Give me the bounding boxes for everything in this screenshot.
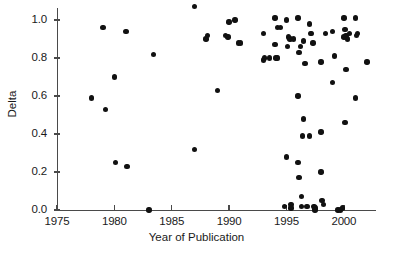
data-point [272, 15, 277, 20]
data-point [205, 33, 210, 38]
data-point [299, 204, 304, 209]
y-axis-line [57, 8, 58, 211]
y-axis-tick [54, 133, 60, 134]
x-axis-tick [56, 205, 57, 211]
data-point [332, 53, 337, 58]
data-point [301, 38, 306, 43]
x-axis-tick [114, 205, 115, 211]
data-point [307, 21, 312, 26]
data-point [345, 36, 350, 41]
x-axis-tick-label: 1980 [92, 215, 136, 227]
data-point [300, 133, 305, 138]
data-point [225, 34, 230, 39]
x-axis-tick-label: 1995 [264, 215, 308, 227]
data-point [192, 147, 197, 152]
data-point [321, 202, 326, 207]
data-point [298, 44, 303, 49]
data-point [226, 19, 231, 24]
scatter-plot-figure: 0.00.20.40.60.81.01975198019851990199520… [0, 0, 393, 253]
data-point [295, 15, 300, 20]
data-point [354, 33, 359, 38]
data-point [310, 40, 315, 45]
x-axis-title: Year of Publication [0, 231, 393, 243]
data-point [151, 52, 156, 57]
data-point [353, 95, 358, 100]
data-point [124, 164, 129, 169]
x-axis-tick-label: 2000 [322, 215, 366, 227]
x-axis-line [57, 210, 376, 211]
data-point [295, 160, 300, 165]
data-point [100, 25, 105, 30]
data-point [278, 25, 283, 30]
y-axis-tick [54, 95, 60, 96]
data-point [113, 160, 118, 165]
data-point [330, 80, 335, 85]
data-point [343, 67, 348, 72]
data-point [347, 31, 352, 36]
data-point [296, 175, 301, 180]
y-axis-tick-label: 0.4 [13, 127, 47, 139]
data-point [275, 55, 280, 60]
x-axis-tick-label: 1990 [207, 215, 251, 227]
data-point [112, 74, 117, 79]
data-point [299, 194, 304, 199]
data-point [272, 42, 277, 47]
x-axis-tick [228, 205, 229, 211]
data-point [301, 116, 306, 121]
data-point [364, 59, 369, 64]
data-point [342, 120, 347, 125]
data-point [318, 59, 323, 64]
data-point [309, 31, 314, 36]
data-point [261, 31, 266, 36]
data-point [318, 169, 323, 174]
data-point [353, 15, 358, 20]
x-axis-tick-label: 1985 [150, 215, 194, 227]
data-point [284, 17, 289, 22]
y-axis-tick-label: 0.8 [13, 51, 47, 63]
data-point [307, 133, 312, 138]
data-point [291, 36, 296, 41]
data-point [318, 129, 323, 134]
y-axis-tick [54, 57, 60, 58]
data-point [146, 207, 151, 212]
y-axis-tick-label: 0.2 [13, 165, 47, 177]
data-point [285, 44, 290, 49]
x-axis-tick [171, 205, 172, 211]
x-axis-tick-label: 1975 [35, 215, 79, 227]
data-point [282, 204, 287, 209]
data-point [89, 95, 94, 100]
y-axis-tick-label: 0.0 [13, 203, 47, 215]
data-point [284, 154, 289, 159]
data-point [123, 29, 128, 34]
data-point [267, 55, 272, 60]
data-point [215, 88, 220, 93]
data-point [295, 93, 300, 98]
data-point [296, 50, 301, 55]
y-axis-tick [54, 171, 60, 172]
y-axis-tick-label: 1.0 [13, 13, 47, 25]
data-point [192, 4, 197, 9]
y-axis-title: Delta [6, 74, 18, 134]
data-point [341, 15, 346, 20]
data-point [312, 207, 317, 212]
y-axis-tick [54, 19, 60, 20]
data-point [323, 31, 328, 36]
data-point [288, 205, 293, 210]
data-point [304, 204, 309, 209]
y-axis-tick-label: 0.6 [13, 89, 47, 101]
data-point [232, 17, 237, 22]
data-point [238, 40, 243, 45]
data-point [103, 107, 108, 112]
data-point [302, 61, 307, 66]
data-point [330, 29, 335, 34]
